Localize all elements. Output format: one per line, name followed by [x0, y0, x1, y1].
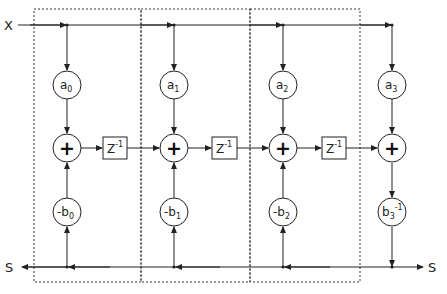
adder-2-plus-icon: + [275, 137, 291, 159]
output-right-label: S [428, 260, 436, 275]
signal-flow-diagram: X S S a0 a1 a2 a3 + + + + Z-1 Z-1 Z-1 -b… [0, 0, 447, 294]
adder-0-plus-icon: + [59, 137, 75, 159]
adder-1-plus-icon: + [166, 137, 182, 159]
output-left-label: S [5, 260, 13, 275]
input-label: X [4, 18, 13, 33]
adder-3-plus-icon: + [384, 137, 400, 159]
stage-boxes [34, 9, 360, 282]
